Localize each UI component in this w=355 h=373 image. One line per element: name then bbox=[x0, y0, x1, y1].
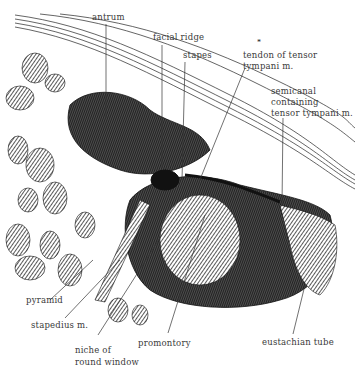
label-stapedius: stapedius m. bbox=[31, 320, 88, 330]
label-semicanal-line3: tensor tympani m. bbox=[271, 108, 353, 118]
label-tendon-line1: tendon of tensor bbox=[243, 50, 317, 60]
stapes-shape bbox=[151, 170, 179, 190]
label-semicanal-line1: semicanal bbox=[271, 86, 316, 96]
mastoid-air-cells bbox=[6, 53, 148, 325]
label-promontory: promontory bbox=[138, 338, 191, 348]
label-semicanal-line2: containing bbox=[271, 97, 319, 107]
label-stapes: stapes bbox=[183, 50, 212, 60]
label-tendon-line2: tympani m. bbox=[243, 61, 293, 71]
label-niche-line2: round window bbox=[75, 357, 139, 367]
label-niche-line1: niche of bbox=[75, 345, 111, 355]
anatomy-figure: * antrum facial ridge stapes tendon of t… bbox=[0, 0, 355, 373]
label-facial-ridge: facial ridge bbox=[153, 32, 204, 42]
antrum-region bbox=[68, 92, 210, 174]
label-eustachian-tube: eustachian tube bbox=[262, 337, 334, 347]
label-antrum: antrum bbox=[92, 12, 125, 22]
label-pyramid: pyramid bbox=[26, 295, 63, 305]
promontory-bulge bbox=[160, 195, 240, 285]
asterisk-mark: * bbox=[257, 38, 261, 47]
